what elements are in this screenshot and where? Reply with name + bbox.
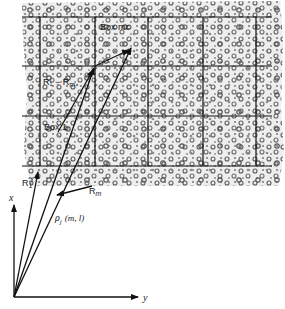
grid-vector-diagram: Box mc Box 1 R₁ − Rm R1 Rm ρj(m, l) x y (0, 0, 285, 309)
label-axis-y: y (142, 292, 148, 303)
label-axis-x: x (8, 192, 14, 203)
tissue-image (22, 1, 284, 186)
label-rho: ρj(m, l) (54, 212, 84, 226)
vector-r1 (14, 172, 38, 297)
label-rm: Rm (89, 186, 102, 197)
label-box-mc: Box mc (100, 22, 131, 32)
rm-pointer (57, 186, 92, 195)
label-box-1: Box 1 (44, 122, 67, 132)
